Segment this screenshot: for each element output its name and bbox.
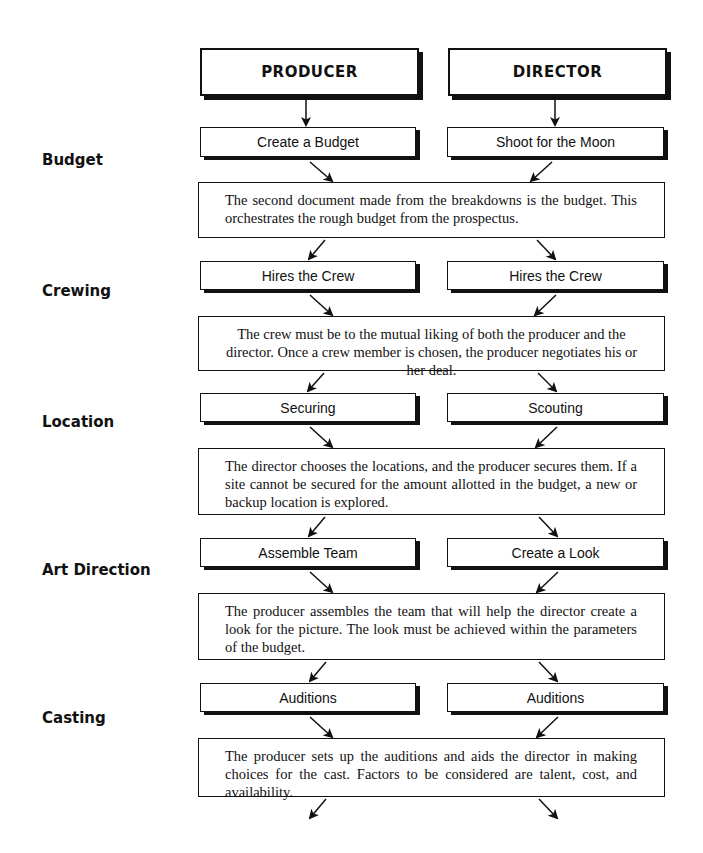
- flow-arrows: [0, 0, 703, 853]
